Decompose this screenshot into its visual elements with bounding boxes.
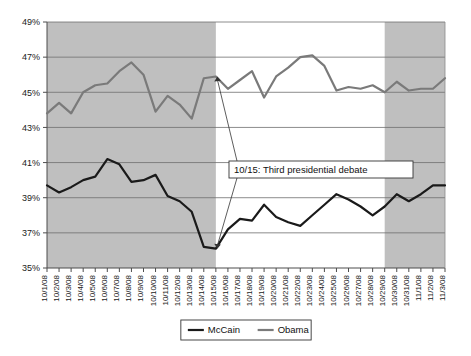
chart-canvas: 49%47%45%43%41%39%37%35% 10/1/0810/2/081… bbox=[0, 0, 471, 356]
x-tick-label: 10/1/08 bbox=[40, 274, 49, 301]
x-tick-label: 11/3/08 bbox=[438, 274, 447, 301]
x-tick-label: 10/3/08 bbox=[64, 274, 73, 301]
x-tick-label: 10/16/08 bbox=[221, 274, 230, 306]
x-tick-label: 10/20/08 bbox=[269, 274, 278, 306]
x-axis-ticks: 10/1/0810/2/0810/3/0810/4/0810/5/0810/6/… bbox=[40, 268, 447, 306]
legend-label-mccain: McCain bbox=[208, 324, 240, 335]
x-tick-label: 10/28/08 bbox=[366, 274, 375, 306]
x-tick-label: 10/24/08 bbox=[317, 274, 326, 306]
x-tick-label: 10/26/08 bbox=[342, 274, 351, 306]
y-tick-label: 35% bbox=[22, 263, 40, 273]
x-tick-label: 10/10/08 bbox=[149, 274, 158, 306]
x-tick-label: 10/14/08 bbox=[197, 274, 206, 306]
y-tick-label: 49% bbox=[22, 17, 40, 27]
x-tick-label: 10/23/08 bbox=[305, 274, 314, 306]
x-tick-label: 10/13/08 bbox=[185, 274, 194, 306]
x-tick-label: 10/31/08 bbox=[402, 274, 411, 306]
pre-debate-shading bbox=[47, 22, 216, 268]
x-tick-label: 10/7/08 bbox=[112, 274, 121, 301]
x-tick-label: 10/18/08 bbox=[245, 274, 254, 306]
x-tick-label: 10/30/08 bbox=[390, 274, 399, 306]
x-tick-label: 10/4/08 bbox=[76, 274, 85, 301]
annotation-layer: 10/15: Third presidential debate bbox=[214, 76, 413, 248]
shaded-bands-layer bbox=[47, 22, 445, 268]
y-tick-label: 37% bbox=[22, 228, 40, 238]
post-debate-shading bbox=[385, 22, 445, 268]
annotation-arrow-line bbox=[217, 178, 237, 246]
x-tick-label: 10/6/08 bbox=[100, 274, 109, 301]
y-tick-label: 41% bbox=[22, 158, 40, 168]
y-tick-label: 43% bbox=[22, 123, 40, 133]
annotation-arrow-line bbox=[217, 79, 237, 161]
x-tick-label: 10/17/08 bbox=[233, 274, 242, 306]
x-tick-label: 10/22/08 bbox=[293, 274, 302, 306]
annotation-text: 10/15: Third presidential debate bbox=[234, 164, 367, 175]
y-tick-label: 39% bbox=[22, 193, 40, 203]
x-tick-label: 10/9/08 bbox=[136, 274, 145, 301]
y-tick-label: 47% bbox=[22, 52, 40, 62]
x-tick-label: 10/21/08 bbox=[281, 274, 290, 306]
x-tick-label: 11/1/08 bbox=[414, 274, 423, 301]
chart-legend: McCainObama bbox=[181, 320, 311, 340]
x-tick-label: 10/15/08 bbox=[209, 274, 218, 306]
x-tick-label: 10/12/08 bbox=[173, 274, 182, 306]
poll-trend-chart: 49%47%45%43%41%39%37%35% 10/1/0810/2/081… bbox=[0, 0, 471, 356]
x-tick-label: 10/27/08 bbox=[354, 274, 363, 306]
x-tick-label: 10/5/08 bbox=[88, 274, 97, 301]
x-tick-label: 10/11/08 bbox=[161, 274, 170, 305]
x-tick-label: 10/29/08 bbox=[378, 274, 387, 306]
x-tick-label: 10/25/08 bbox=[329, 274, 338, 306]
x-tick-label: 10/2/08 bbox=[52, 274, 61, 301]
y-tick-label: 45% bbox=[22, 88, 40, 98]
x-tick-label: 11/2/08 bbox=[426, 274, 435, 301]
legend-label-obama: Obama bbox=[278, 324, 310, 335]
x-tick-label: 10/19/08 bbox=[257, 274, 266, 306]
y-axis-ticks: 49%47%45%43%41%39%37%35% bbox=[22, 17, 47, 273]
x-tick-label: 10/8/08 bbox=[124, 274, 133, 301]
